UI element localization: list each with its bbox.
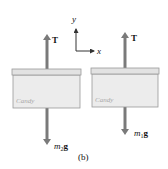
weight-label-left: m2g <box>54 141 69 152</box>
panel-label: (b) <box>78 152 89 162</box>
free-body-diagram: y x Candy T m2g Candy T m1g (b) <box>0 0 168 169</box>
left-candy-box: Candy T m2g <box>12 35 81 152</box>
weight-label-right: m1g <box>134 128 149 139</box>
right-candy-box: Candy T m1g <box>91 33 159 139</box>
tension-label-left: T <box>52 35 58 45</box>
box-lid-right <box>91 68 159 74</box>
candy-label-right: Candy <box>95 96 114 104</box>
tension-label-right: T <box>131 33 137 43</box>
y-axis-label: y <box>71 14 76 24</box>
x-axis-label: x <box>96 46 101 56</box>
coordinate-axes: y x <box>71 14 101 56</box>
candy-label-left: Candy <box>16 97 35 105</box>
box-lid-left <box>12 69 81 75</box>
